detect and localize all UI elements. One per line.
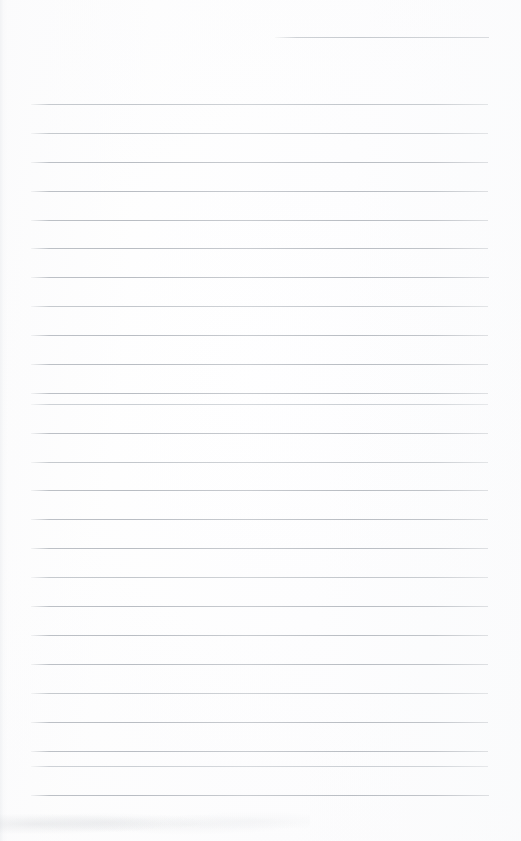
scan-edge-artifact [0,0,8,841]
writing-area[interactable] [31,90,489,810]
scan-smudge-artifact [0,806,310,836]
ruled-line-partial [275,37,489,38]
scanned-page [0,0,521,841]
